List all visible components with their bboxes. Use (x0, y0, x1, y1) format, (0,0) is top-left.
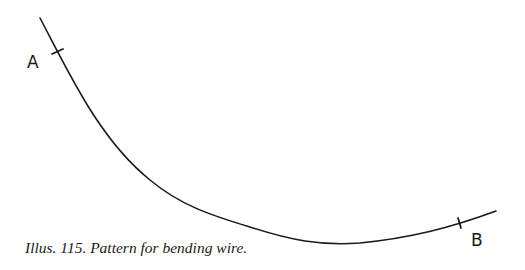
wire-curve (40, 18, 496, 244)
point-a-label: A (27, 54, 39, 71)
wire-pattern-figure: A B Illus. 115. Pattern for bending wire… (0, 0, 525, 270)
point-b-label: B (471, 232, 483, 249)
wire-curve-drawing (0, 0, 525, 270)
figure-caption: Illus. 115. Pattern for bending wire. (25, 239, 247, 257)
